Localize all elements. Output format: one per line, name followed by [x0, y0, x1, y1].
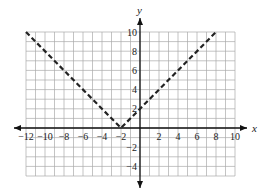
y-tick-label: 8: [132, 46, 137, 57]
y-axis-down-arrow-icon: [137, 181, 143, 188]
x-tick-label: −6: [78, 131, 89, 142]
y-axis-up-arrow-icon: [137, 18, 143, 25]
x-tick-label: −4: [97, 131, 108, 142]
y-tick-label: −2: [126, 142, 137, 153]
x-tick-label: −12: [18, 131, 34, 142]
y-tick-label: 6: [132, 65, 137, 76]
x-tick-label: 2: [157, 131, 162, 142]
x-tick-label: 8: [214, 131, 219, 142]
y-axis-label: y: [136, 4, 142, 16]
x-tick-label: 4: [176, 131, 181, 142]
y-tick-label: −4: [126, 161, 137, 172]
x-tick-label: −8: [59, 131, 70, 142]
x-axis-label: x: [251, 122, 257, 134]
x-tick-label: −10: [37, 131, 53, 142]
x-tick-label: −2: [116, 131, 127, 142]
x-tick-label: 10: [230, 131, 240, 142]
y-tick-label: 4: [132, 84, 137, 95]
y-tick-label: 10: [127, 27, 137, 38]
graph-figure: xy−12−10−8−6−4−2246810108642−2−4: [0, 0, 273, 194]
x-tick-label: 6: [195, 131, 200, 142]
x-axis-right-arrow-icon: [240, 125, 247, 131]
